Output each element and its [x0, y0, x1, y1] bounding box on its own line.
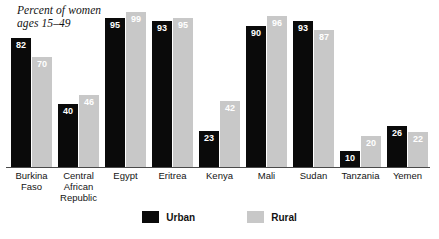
bar-urban: 10	[340, 151, 360, 167]
bar-value-label: 95	[173, 20, 193, 30]
bar-urban: 93	[293, 21, 313, 167]
bar-value-label: 42	[220, 103, 240, 113]
legend-swatch-icon	[247, 211, 264, 223]
bar-group: 4046	[55, 10, 102, 167]
bar-group: 9395	[149, 10, 196, 167]
bar-urban: 82	[11, 38, 31, 167]
bar-value-label: 46	[79, 97, 99, 107]
legend-label: Urban	[166, 212, 195, 223]
bar-group: 9096	[243, 10, 290, 167]
bar-value-label: 93	[152, 23, 172, 33]
bar-rural: 95	[173, 18, 193, 167]
bar-value-label: 22	[408, 134, 428, 144]
plot-area: 827040469599939523429096938710202622	[8, 10, 431, 167]
bar-value-label: 95	[105, 20, 125, 30]
bar-rural: 20	[361, 136, 381, 167]
bar-group: 1020	[337, 10, 384, 167]
bar-value-label: 26	[387, 128, 407, 138]
bar-rural: 42	[220, 101, 240, 167]
bar-value-label: 70	[32, 59, 52, 69]
bar-value-label: 99	[126, 14, 146, 24]
legend-label: Rural	[271, 212, 297, 223]
chart-legend: UrbanRural	[0, 211, 439, 223]
bar-group: 9599	[102, 10, 149, 167]
category-label: Tanzania	[337, 170, 384, 203]
bar-group: 2622	[384, 10, 431, 167]
bar-value-label: 87	[314, 32, 334, 42]
bar-urban: 90	[246, 26, 266, 167]
bar-urban: 23	[199, 131, 219, 167]
bar-group: 8270	[8, 10, 55, 167]
category-label: Sudan	[290, 170, 337, 203]
bar-value-label: 10	[340, 153, 360, 163]
bar-value-label: 90	[246, 28, 266, 38]
bar-rural: 46	[79, 95, 99, 167]
legend-item-urban: Urban	[142, 211, 195, 223]
bar-group: 9387	[290, 10, 337, 167]
x-axis-line	[6, 167, 430, 168]
bar-value-label: 40	[58, 106, 78, 116]
x-axis-category-labels: Burkina FasoCentral African RepublicEgyp…	[8, 170, 431, 203]
category-label: Yemen	[384, 170, 431, 203]
bar-rural: 99	[126, 12, 146, 167]
legend-item-rural: Rural	[247, 211, 297, 223]
bar-value-label: 82	[11, 40, 31, 50]
bar-groups: 827040469599939523429096938710202622	[8, 10, 431, 167]
bar-value-label: 23	[199, 133, 219, 143]
category-label: Eritrea	[149, 170, 196, 203]
category-label: Burkina Faso	[8, 170, 55, 203]
bar-rural: 70	[32, 57, 52, 167]
chart-container: Percent of women ages 15–49 827040469599…	[0, 0, 439, 239]
bar-urban: 95	[105, 18, 125, 167]
category-label: Mali	[243, 170, 290, 203]
bar-rural: 22	[408, 132, 428, 167]
bar-group: 2342	[196, 10, 243, 167]
bar-urban: 40	[58, 104, 78, 167]
bar-rural: 96	[267, 16, 287, 167]
category-label: Kenya	[196, 170, 243, 203]
bar-urban: 93	[152, 21, 172, 167]
bar-urban: 26	[387, 126, 407, 167]
bar-value-label: 96	[267, 18, 287, 28]
bar-rural: 87	[314, 30, 334, 167]
category-label: Egypt	[102, 170, 149, 203]
bar-value-label: 93	[293, 23, 313, 33]
legend-swatch-icon	[142, 211, 159, 223]
bar-value-label: 20	[361, 138, 381, 148]
category-label: Central African Republic	[55, 170, 102, 203]
